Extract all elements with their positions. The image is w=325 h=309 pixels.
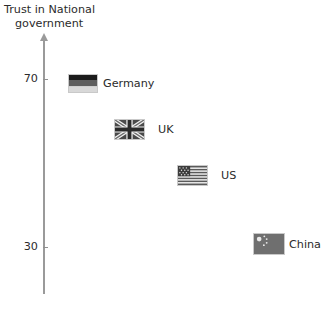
china-flag-icon	[253, 233, 285, 255]
germany-flag-icon	[68, 74, 98, 93]
chart-title-line-2: government	[0, 17, 105, 31]
us-flag-icon	[177, 165, 208, 186]
trust-scatter-chart: Trust in National government 70 30 Germa…	[0, 0, 325, 309]
data-point-label-germany: Germany	[103, 77, 154, 90]
data-point-label-china: China	[289, 238, 321, 251]
y-axis-arrow-icon	[39, 33, 49, 42]
data-point-label-uk: UK	[158, 123, 174, 136]
y-tick-mark-70	[43, 79, 48, 80]
data-point-label-us: US	[221, 169, 236, 182]
chart-title: Trust in National government	[0, 3, 105, 31]
y-tick-label-70: 70	[18, 72, 38, 85]
y-tick-mark-30	[43, 247, 48, 248]
y-tick-label-30: 30	[18, 240, 38, 253]
chart-title-line-1: Trust in National	[0, 3, 105, 17]
uk-flag-icon	[114, 119, 145, 140]
